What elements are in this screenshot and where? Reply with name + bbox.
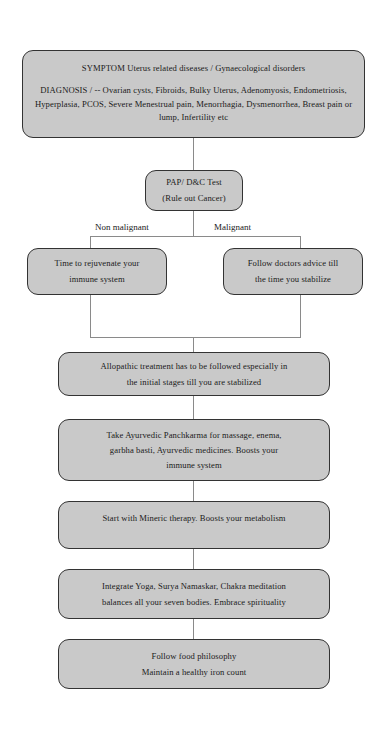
connector-split-to-malignant <box>300 236 301 248</box>
node-yoga-meditation[interactable]: Integrate Yoga, Surya Namaskar, Chakra m… <box>58 569 330 619</box>
connector-merge-to-allopathic <box>193 337 194 352</box>
node-panchkarma-line-3: immune system <box>70 459 318 472</box>
branch-label-non-malignant: Non malignant <box>95 222 149 232</box>
node-food-philosophy[interactable]: Follow food philosophy Maintain a health… <box>58 639 330 689</box>
connector-malignant-to-merge <box>300 295 301 337</box>
connector-split-bar <box>90 236 301 237</box>
node-malignant-action[interactable]: Follow doctors advice till the time you … <box>223 248 363 295</box>
node-symptom-line-1: SYMPTOM Uterus related diseases / Gynaec… <box>34 62 353 75</box>
connector-yoga-to-food <box>193 619 194 639</box>
connector-merge-bar <box>90 337 301 338</box>
node-food-line-1: Follow food philosophy <box>70 650 318 663</box>
connector-panchkarma-to-mineric <box>193 481 194 501</box>
node-non-malignant-action[interactable]: Time to rejuvenate your immune system <box>27 248 167 295</box>
branch-label-malignant: Malignant <box>214 222 251 232</box>
node-allopathic-treatment[interactable]: Allopathic treatment has to be followed … <box>58 352 330 396</box>
connector-split-to-nonmalignant <box>90 236 91 248</box>
node-non-malignant-line-2: immune system <box>36 273 158 286</box>
node-symptom-line-2: DIAGNOSIS / -- Ovarian cysts, Fibroids, … <box>34 84 353 124</box>
connector-mineric-to-yoga <box>193 549 194 569</box>
connector-symptom-to-pap <box>193 138 194 170</box>
node-yoga-line-2: balances all your seven bodies. Embrace … <box>70 596 318 609</box>
flowchart-canvas: Non malignant Malignant SYMPTOM Uterus r… <box>0 0 386 731</box>
node-panchkarma-line-2: garbha basti, Ayurvedic medicines. Boost… <box>70 444 318 457</box>
node-pap-line-2: (Rule out Cancer) <box>152 192 236 205</box>
node-ayurvedic-panchkarma[interactable]: Take Ayurvedic Panchkarma for massage, e… <box>58 419 330 481</box>
node-allopathic-line-2: the initial stages till you are stabiliz… <box>70 376 318 389</box>
node-food-line-2: Maintain a healthy iron count <box>70 666 318 679</box>
connector-allopathic-to-panchkarma <box>193 396 194 419</box>
node-mineric-line-1: Start with Mineric therapy. Boosts your … <box>70 512 318 525</box>
node-panchkarma-line-1: Take Ayurvedic Panchkarma for massage, e… <box>70 429 318 442</box>
node-pap-dc-test[interactable]: PAP/ D&C Test (Rule out Cancer) <box>145 170 243 211</box>
node-pap-line-1: PAP/ D&C Test <box>152 176 236 189</box>
node-malignant-line-2: the time you stabilize <box>232 273 354 286</box>
connector-pap-to-split <box>193 211 194 236</box>
node-non-malignant-line-1: Time to rejuvenate your <box>36 257 158 270</box>
node-allopathic-line-1: Allopathic treatment has to be followed … <box>70 360 318 373</box>
node-symptom-diagnosis[interactable]: SYMPTOM Uterus related diseases / Gynaec… <box>22 50 365 138</box>
node-yoga-line-1: Integrate Yoga, Surya Namaskar, Chakra m… <box>70 580 318 593</box>
node-mineric-therapy[interactable]: Start with Mineric therapy. Boosts your … <box>58 501 330 549</box>
node-malignant-line-1: Follow doctors advice till <box>232 257 354 270</box>
connector-nonmalignant-to-merge <box>90 295 91 337</box>
